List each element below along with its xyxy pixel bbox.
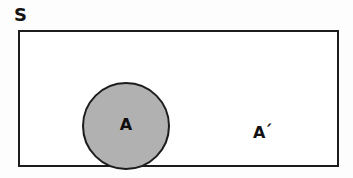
complement-label: A′ [253,125,270,142]
universal-set-label: S [14,6,27,24]
venn-diagram-canvas: S A A′ [0,0,353,178]
set-a-circle: A [82,82,170,170]
universal-set-rectangle: A A′ [18,30,339,167]
prime-mark-icon: ′ [265,122,273,139]
set-a-label: A [120,117,132,133]
